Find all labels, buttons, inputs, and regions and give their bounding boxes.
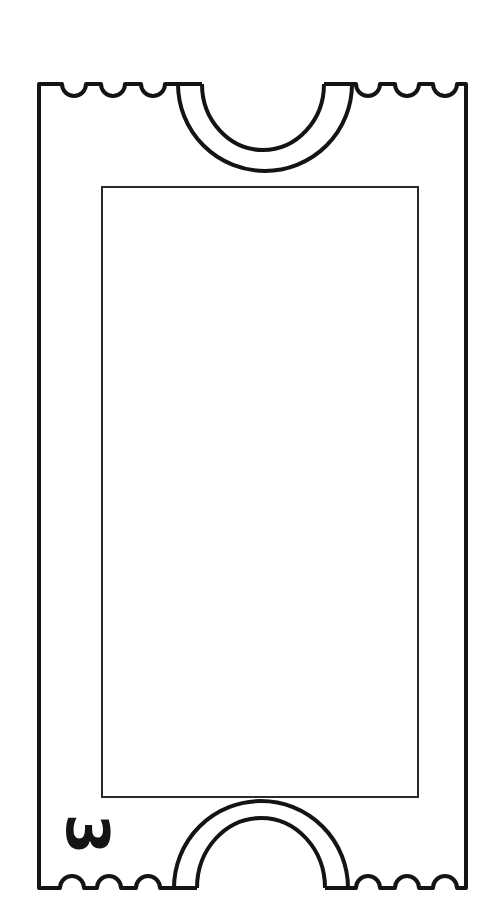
bottom-notch-inner-arc [197,818,325,888]
ticket-number: 3 [59,809,115,859]
content-frame [102,187,418,797]
top-notch-inner-arc [202,84,324,150]
ticket-outline [0,0,491,903]
